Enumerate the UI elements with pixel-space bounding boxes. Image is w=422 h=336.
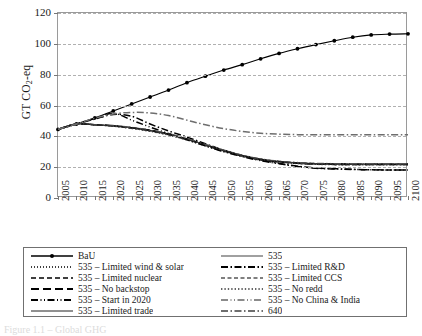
legend-item[interactable]: 535 — [220, 251, 406, 261]
gridline — [58, 167, 406, 168]
gridline — [58, 136, 406, 137]
x-axis-tick — [150, 196, 151, 200]
legend-item[interactable]: 535 – Limited R&D — [220, 262, 406, 272]
legend-swatch-icon — [30, 295, 74, 305]
legend-item[interactable]: 535 – No China & India — [220, 295, 406, 305]
y-axis-tick — [54, 136, 58, 137]
x-axis-tick-label: 2020 — [116, 180, 127, 201]
x-axis-tick — [95, 196, 96, 200]
legend-swatch-icon — [30, 262, 74, 272]
x-axis-tick-label: 2070 — [300, 180, 311, 201]
x-axis-tick-label: 2025 — [135, 180, 146, 201]
series-marker — [296, 47, 300, 51]
legend-swatch-icon — [220, 251, 264, 261]
x-axis-tick — [316, 196, 317, 200]
chart-legend: BaU535 – Limited wind & solar535 – Limit… — [23, 247, 407, 317]
x-axis-tick — [390, 196, 391, 200]
legend-swatch-icon — [220, 284, 264, 294]
y-axis-tick — [54, 75, 58, 76]
x-axis-tick-label: 2045 — [208, 180, 219, 201]
legend-label: 535 – No China & India — [268, 295, 360, 305]
x-axis-tick-label: 2080 — [337, 180, 348, 201]
legend-swatch-icon — [30, 284, 74, 294]
legend-item[interactable]: BaU — [30, 251, 220, 261]
x-axis-tick — [261, 196, 262, 200]
legend-swatch-icon — [220, 262, 264, 272]
x-axis-tick-label: 2030 — [153, 180, 164, 201]
x-axis-tick — [408, 196, 409, 200]
series-marker — [185, 81, 189, 85]
legend-label: 535 – No backstop — [78, 284, 150, 294]
series-line — [58, 113, 408, 170]
legend-item[interactable]: 640 — [220, 306, 406, 316]
x-axis-tick-label: 2005 — [61, 180, 72, 201]
y-axis-tick — [54, 44, 58, 45]
legend-column-left: BaU535 – Limited wind & solar535 – Limit… — [30, 250, 220, 316]
series-line — [58, 112, 408, 134]
legend-item[interactable]: 535 – Limited nuclear — [30, 273, 220, 283]
figure-caption: Figure 1.1 – Global GHG — [4, 324, 107, 335]
x-axis-tick-label: 2040 — [190, 180, 201, 201]
legend-label: 535 – Limited wind & solar — [78, 262, 184, 272]
x-axis-tick-label: 2010 — [79, 180, 90, 201]
x-axis-tick — [132, 196, 133, 200]
x-axis-tick — [58, 196, 59, 200]
legend-swatch-icon — [220, 295, 264, 305]
legend-label: 535 – Limited CCS — [268, 273, 342, 283]
y-axis-tick-label: 20 — [23, 161, 51, 172]
series-line — [58, 114, 408, 170]
x-axis-tick — [353, 196, 354, 200]
legend-item[interactable]: 535 – Limited trade — [30, 306, 220, 316]
x-axis-tick — [224, 196, 225, 200]
legend-label: 535 – Limited nuclear — [78, 273, 162, 283]
legend-swatch-icon — [220, 306, 264, 316]
legend-column-right: 535535 – Limited R&D535 – Limited CCS535… — [220, 250, 406, 316]
x-axis-tick-label: 2055 — [245, 180, 256, 201]
legend-swatch-icon — [220, 273, 264, 283]
series-marker — [388, 32, 392, 36]
legend-item[interactable]: 535 – No backstop — [30, 284, 220, 294]
series-marker — [111, 109, 115, 113]
y-axis-tick — [54, 167, 58, 168]
series-marker — [259, 57, 263, 61]
gridline — [58, 44, 406, 45]
y-axis-tick-label: 60 — [23, 100, 51, 111]
x-axis-tick-label: 2085 — [356, 180, 367, 201]
x-axis-tick-label: 2075 — [319, 180, 330, 201]
legend-swatch-icon — [30, 306, 74, 316]
series-marker — [369, 33, 373, 37]
legend-item[interactable]: 535 – Limited CCS — [220, 273, 406, 283]
x-axis-tick-label: 2035 — [172, 180, 183, 201]
series-marker — [406, 32, 410, 36]
series-marker — [148, 95, 152, 99]
legend-swatch-icon — [30, 251, 74, 261]
legend-item[interactable]: 535 – No redd — [220, 284, 406, 294]
legend-label: 535 – Start in 2020 — [78, 295, 151, 305]
y-axis-tick-label: 120 — [23, 7, 51, 18]
legend-item[interactable]: 535 – Limited wind & solar — [30, 262, 220, 272]
y-axis-tick — [54, 13, 58, 14]
legend-item[interactable]: 535 – Start in 2020 — [30, 295, 220, 305]
legend-label: 535 – Limited trade — [78, 306, 153, 316]
gridline — [58, 75, 406, 76]
x-axis-tick-label: 2100 — [411, 180, 422, 201]
series-marker — [351, 35, 355, 39]
y-axis-title-subscript: 2 — [25, 80, 34, 84]
gridline — [58, 13, 406, 14]
x-axis-tick — [187, 196, 188, 200]
x-axis-tick-label: 2015 — [98, 180, 109, 201]
x-axis-tick-label: 2095 — [393, 180, 404, 201]
x-axis-tick — [279, 196, 280, 200]
x-axis-tick-label: 2065 — [282, 180, 293, 201]
legend-label: 535 – Limited R&D — [268, 262, 345, 272]
gridline — [58, 106, 406, 107]
x-axis-tick-label: 2050 — [227, 180, 238, 201]
y-axis-tick-label: 0 — [23, 192, 51, 203]
series-marker — [240, 63, 244, 67]
series-marker — [277, 51, 281, 55]
y-axis-tick — [54, 106, 58, 107]
legend-label: 535 – No redd — [268, 284, 323, 294]
series-marker — [167, 88, 171, 92]
legend-label: 640 — [268, 306, 282, 316]
